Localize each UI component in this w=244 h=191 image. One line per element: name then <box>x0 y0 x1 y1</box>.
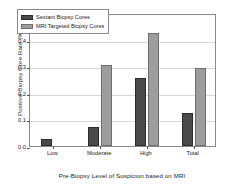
bar <box>148 33 159 146</box>
x-tick-mark <box>147 146 148 149</box>
bar <box>101 65 112 146</box>
x-tick-mark <box>53 146 54 149</box>
y-tick-label: 0.1 <box>8 117 26 123</box>
chart-legend: Sextant Biopsy Cores MRI Targeted Biopsy… <box>17 9 109 34</box>
y-tick-mark <box>27 95 30 96</box>
x-tick-label: Low <box>47 150 58 156</box>
gridline <box>30 68 215 69</box>
y-tick-label: 0.0 <box>8 144 26 150</box>
y-tick-mark <box>27 42 30 43</box>
y-tick-mark <box>27 121 30 122</box>
legend-label-sextant: Sextant Biopsy Cores <box>36 14 90 20</box>
y-tick-label: 0.2 <box>8 91 26 97</box>
bar <box>195 68 206 146</box>
bar <box>88 127 99 146</box>
y-tick-label: 0.3 <box>8 64 26 70</box>
x-axis-title: Pre-Biopsy Level of Suspicion based on M… <box>0 172 244 179</box>
x-tick-label: Moderate <box>87 150 112 156</box>
bar <box>182 113 193 146</box>
x-tick-mark <box>194 146 195 149</box>
legend-label-mri-targeted: MRI Targeted Biopsy Cores <box>36 23 104 29</box>
legend-item-sextant: Sextant Biopsy Cores <box>21 13 104 21</box>
x-tick-label: Total <box>187 150 199 156</box>
y-tick-mark <box>27 148 30 149</box>
bar <box>135 78 146 146</box>
legend-item-mri-targeted: MRI Targeted Biopsy Cores <box>21 22 104 30</box>
bar <box>41 139 52 146</box>
y-tick-label: 0.4 <box>8 38 26 44</box>
y-tick-mark <box>27 68 30 69</box>
legend-swatch-mri-targeted-icon <box>21 24 33 29</box>
x-tick-mark <box>100 146 101 149</box>
bar-chart-figure: Positive Biopsy Core Rate (%) 0.00.10.20… <box>0 0 244 191</box>
legend-swatch-sextant-icon <box>21 15 33 20</box>
x-tick-label: High <box>140 150 152 156</box>
gridline <box>30 95 215 96</box>
gridline <box>30 42 215 43</box>
